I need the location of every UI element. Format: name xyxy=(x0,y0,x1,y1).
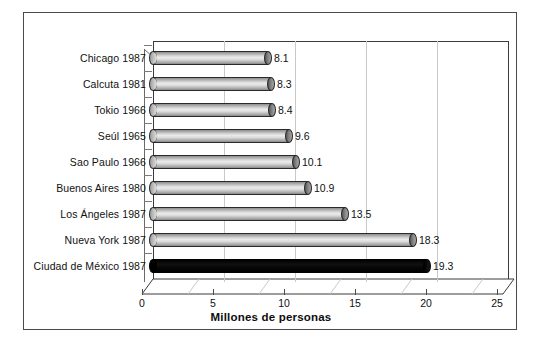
bar-cap-left xyxy=(149,233,157,247)
bar-cap-right xyxy=(285,129,293,143)
category-label: Calcuta 1981 xyxy=(83,78,146,90)
y-tick-mark xyxy=(144,71,152,72)
bar-row-highlighted[interactable]: Ciudad de México 1987 19.3 xyxy=(24,253,518,279)
y-tick-mark xyxy=(144,201,152,202)
value-label: 13.5 xyxy=(351,208,371,220)
bar-row[interactable]: Los Ángeles 1987 13.5 xyxy=(24,201,518,227)
bar-cylinder[interactable] xyxy=(153,233,413,247)
bar-row[interactable]: Buenos Aires 1980 10.9 xyxy=(24,175,518,201)
bar-row[interactable]: Chicago 1987 8.1 xyxy=(24,45,518,71)
bar-cap-right xyxy=(264,51,272,65)
y-tick-mark xyxy=(144,149,152,150)
category-label: Ciudad de México 1987 xyxy=(34,260,146,272)
value-label: 8.4 xyxy=(278,104,293,116)
bars-layer: Chicago 1987 8.1 Calcuta 1981 8.3 xyxy=(24,13,518,331)
plot-area: Chicago 1987 8.1 Calcuta 1981 8.3 xyxy=(24,13,518,331)
bar-row[interactable]: Calcuta 1981 8.3 xyxy=(24,71,518,97)
bar-cap-right xyxy=(409,233,417,247)
x-tick-label: 5 xyxy=(210,297,216,309)
bar-cylinder[interactable] xyxy=(153,207,345,221)
x-tick-mark-10 xyxy=(284,289,285,295)
x-axis-title: Millones de personas xyxy=(24,311,518,323)
x-tick-label: 15 xyxy=(349,297,361,309)
y-tick-mark xyxy=(144,45,152,46)
category-label: Los Ángeles 1987 xyxy=(60,208,146,220)
x-tick-mark-5 xyxy=(213,289,214,295)
bar-cylinder[interactable] xyxy=(153,103,272,117)
x-tick-mark-20 xyxy=(426,289,427,295)
x-tick-mark-15 xyxy=(355,289,356,295)
y-tick-mark xyxy=(144,253,152,254)
bar-cap-right xyxy=(268,103,276,117)
bar-cap-left xyxy=(149,77,157,91)
value-label: 8.3 xyxy=(277,78,292,90)
bar-cylinder[interactable] xyxy=(153,51,268,65)
chart-frame: Chicago 1987 8.1 Calcuta 1981 8.3 xyxy=(23,12,517,330)
bar-cap-left xyxy=(149,207,157,221)
x-tick-mark-25 xyxy=(497,289,498,295)
bar-cap-left xyxy=(149,181,157,195)
x-tick-label: 25 xyxy=(491,297,503,309)
category-label: Sao Paulo 1966 xyxy=(70,156,146,168)
bar-row[interactable]: Sao Paulo 1966 10.1 xyxy=(24,149,518,175)
y-tick-mark xyxy=(144,123,152,124)
y-tick-mark xyxy=(144,97,152,98)
bar-row[interactable]: Nueva York 1987 18.3 xyxy=(24,227,518,253)
value-label: 19.3 xyxy=(433,260,453,272)
value-label: 10.9 xyxy=(314,182,334,194)
bar-cap-right xyxy=(292,155,300,169)
bar-cylinder[interactable] xyxy=(153,129,289,143)
bar-row[interactable]: Seúl 1965 9.6 xyxy=(24,123,518,149)
bar-cylinder[interactable] xyxy=(153,181,308,195)
category-label: Chicago 1987 xyxy=(80,52,146,64)
x-tick-label: 20 xyxy=(420,297,432,309)
category-label: Seúl 1965 xyxy=(98,130,146,142)
bar-cap-right xyxy=(341,207,349,221)
bar-cylinder[interactable] xyxy=(153,155,296,169)
bar-row[interactable]: Tokio 1966 8.4 xyxy=(24,97,518,123)
category-label: Buenos Aires 1980 xyxy=(56,182,146,194)
value-label: 8.1 xyxy=(274,52,289,64)
value-label: 9.6 xyxy=(295,130,310,142)
category-label: Tokio 1966 xyxy=(94,104,146,116)
category-label: Nueva York 1987 xyxy=(65,234,146,246)
bar-cap-right xyxy=(267,77,275,91)
bar-cap-left xyxy=(149,129,157,143)
x-tick-label: 0 xyxy=(139,297,145,309)
x-tick-label: 10 xyxy=(278,297,290,309)
value-label: 10.1 xyxy=(302,156,322,168)
y-tick-mark xyxy=(144,175,152,176)
bar-cap-left xyxy=(149,51,157,65)
bar-cap-right xyxy=(304,181,312,195)
bar-cap-left xyxy=(149,259,157,273)
bar-cap-left xyxy=(149,103,157,117)
y-tick-mark xyxy=(144,227,152,228)
bar-cap-left xyxy=(149,155,157,169)
x-tick-mark-0 xyxy=(142,289,143,295)
value-label: 18.3 xyxy=(419,234,439,246)
bar-cap-right xyxy=(423,259,431,273)
bar-cylinder[interactable] xyxy=(153,259,427,273)
bar-cylinder[interactable] xyxy=(153,77,271,91)
